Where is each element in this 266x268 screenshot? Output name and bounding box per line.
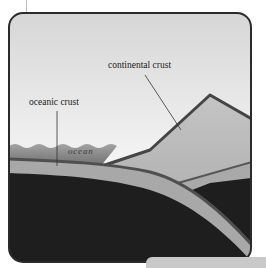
subduction-diagram <box>0 0 266 268</box>
oceanic-crust-label: oceanic crust <box>29 98 79 108</box>
ocean-label: ocean <box>68 147 94 156</box>
bottom-tab <box>146 257 266 268</box>
continental-crust-label: continental crust <box>108 61 171 71</box>
